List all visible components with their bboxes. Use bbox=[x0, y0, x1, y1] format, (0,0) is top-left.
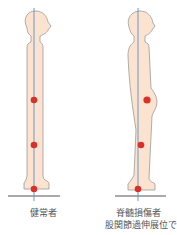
sci-hip-marker bbox=[143, 96, 150, 103]
healthy-shin-marker bbox=[31, 142, 38, 149]
sci-sublabel: 股関節過伸展位で bbox=[96, 220, 177, 231]
healthy-figure bbox=[8, 8, 60, 201]
posture-diagram bbox=[0, 0, 177, 235]
healthy-label: 健常者 bbox=[18, 208, 68, 219]
sci-silhouette bbox=[128, 11, 157, 190]
sci-label: 脊髄損傷者 bbox=[100, 208, 177, 219]
sci-foot-marker bbox=[135, 186, 142, 193]
healthy-silhouette bbox=[24, 11, 51, 189]
sci-knee-marker bbox=[138, 142, 145, 149]
healthy-foot-marker bbox=[31, 186, 38, 193]
healthy-knee-marker bbox=[31, 97, 38, 104]
sci-figure bbox=[115, 8, 166, 201]
